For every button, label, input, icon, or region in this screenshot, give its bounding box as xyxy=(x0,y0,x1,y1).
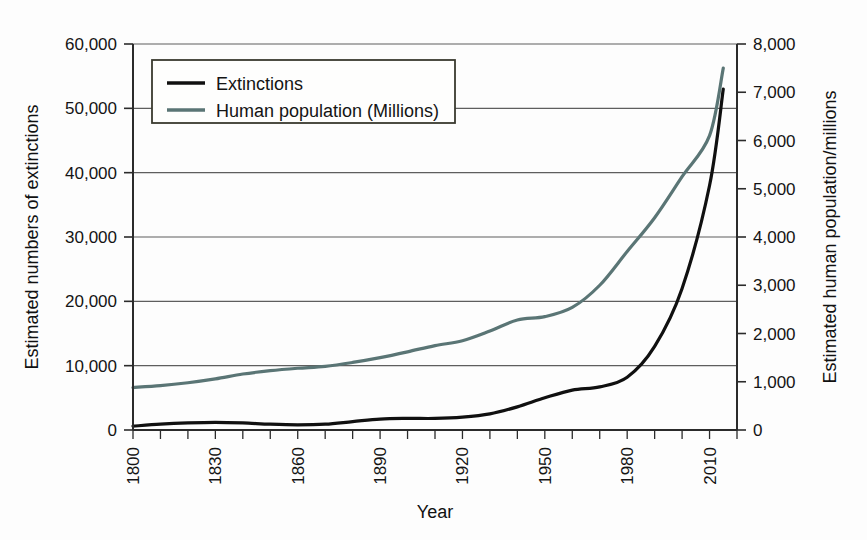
right-tick-label: 4,000 xyxy=(753,228,796,247)
left-tick-label: 40,000 xyxy=(65,164,117,183)
left-tick-label: 50,000 xyxy=(65,99,117,118)
right-tick-label: 8,000 xyxy=(753,35,796,54)
series-line-extinctions xyxy=(133,89,723,426)
left-tick-label: 30,000 xyxy=(65,228,117,247)
legend-label-extinctions: Extinctions xyxy=(216,74,303,94)
x-tick-label: 1980 xyxy=(618,447,637,485)
right-axis-title: Estimated human population/millions xyxy=(820,90,840,383)
x-tick-label: 1860 xyxy=(289,447,308,485)
left-axis-ticks: 010,00020,00030,00040,00050,00060,000 xyxy=(65,35,133,440)
right-tick-label: 5,000 xyxy=(753,180,796,199)
right-tick-label: 0 xyxy=(753,421,762,440)
right-tick-label: 6,000 xyxy=(753,132,796,151)
x-tick-label: 1920 xyxy=(453,447,472,485)
left-tick-label: 10,000 xyxy=(65,357,117,376)
left-axis-title: Estimated numbers of extinctions xyxy=(22,104,42,369)
chart-figure: 010,00020,00030,00040,00050,00060,000 01… xyxy=(0,0,867,540)
x-tick-label: 1830 xyxy=(206,447,225,485)
chart-legend: Extinctions Human population (Millions) xyxy=(152,60,455,123)
x-tick-label: 2010 xyxy=(701,447,720,485)
extinctions-vs-population-line-chart: 010,00020,00030,00040,00050,00060,000 01… xyxy=(0,0,867,540)
x-tick-label: 1890 xyxy=(371,447,390,485)
x-axis-ticks: 18001830186018901920195019802010 xyxy=(124,430,737,485)
right-tick-label: 1,000 xyxy=(753,373,796,392)
legend-label-human-population: Human population (Millions) xyxy=(216,101,439,121)
right-tick-label: 2,000 xyxy=(753,325,796,344)
right-tick-label: 7,000 xyxy=(753,83,796,102)
x-tick-label: 1950 xyxy=(536,447,555,485)
x-axis-title: Year xyxy=(417,502,453,522)
right-axis-ticks: 01,0002,0003,0004,0005,0006,0007,0008,00… xyxy=(737,35,796,440)
left-tick-label: 0 xyxy=(108,421,117,440)
x-tick-label: 1800 xyxy=(124,447,143,485)
right-tick-label: 3,000 xyxy=(753,276,796,295)
left-tick-label: 60,000 xyxy=(65,35,117,54)
left-tick-label: 20,000 xyxy=(65,292,117,311)
